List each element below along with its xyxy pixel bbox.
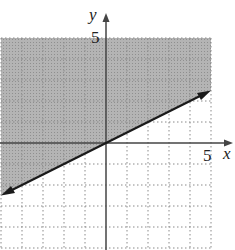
y-tick-label-5: 5 [91, 28, 100, 47]
y-axis-label: y [87, 5, 97, 24]
y-axis-arrow-icon [103, 13, 110, 22]
inequality-graph: y 5 5 x [0, 0, 235, 250]
x-tick-label-5: 5 [203, 146, 212, 165]
x-axis-label: x [222, 144, 231, 163]
